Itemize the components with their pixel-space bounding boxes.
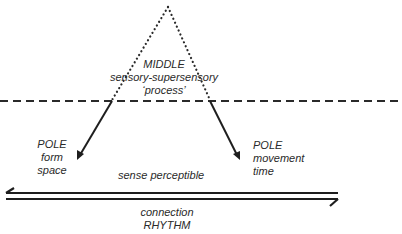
left-pole-line1: form [37,151,66,164]
diagram-lines [0,0,402,234]
right-pole-line1: movement [253,152,304,165]
left-pole-title: POLE [37,138,66,151]
bottom-label: connection RHYTHM [140,206,193,232]
middle-line2: ‘process’ [110,84,218,97]
bottom-line2: RHYTHM [140,219,193,232]
right-pole-arrow [210,101,237,155]
right-pole-label: POLE movement time [253,139,304,178]
center-label: sense perceptible [118,169,204,182]
right-pole-title: POLE [253,139,304,152]
left-pole-arrow [80,101,112,155]
right-pole-line2: time [253,165,304,178]
middle-title: MIDDLE [110,58,218,71]
bottom-line1: connection [140,206,193,219]
left-pole-line2: space [37,164,66,177]
middle-label: MIDDLE sensory-supersensory ‘process’ [110,58,218,97]
left-pole-label: POLE form space [37,138,66,177]
middle-line1: sensory-supersensory [110,71,218,84]
